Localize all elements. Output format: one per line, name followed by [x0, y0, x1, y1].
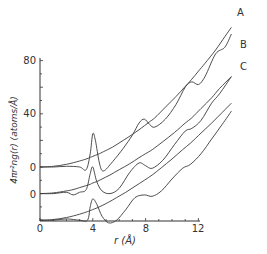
y-tick-label-40: 40 [23, 108, 36, 119]
x-tick-label-12: 12 [192, 223, 205, 234]
x-tick-label-8: 8 [143, 223, 149, 234]
y-tick-label-0-b: 0 [30, 189, 36, 200]
rdf-chart: 80 40 0 0 0 4 8 12 r (Å) 4πr²ng(r) (atom… [0, 0, 267, 254]
curve-a-parabola [40, 27, 231, 167]
curves [40, 27, 231, 223]
curve-b-rdf [40, 77, 231, 195]
y-tick-label-80: 80 [23, 55, 36, 66]
curve-label-c: C [240, 61, 247, 72]
curve-c-parabola [40, 103, 231, 220]
curve-c-rdf [40, 111, 231, 223]
curve-label-a: A [237, 7, 244, 18]
x-axis-title: r (Å) [114, 234, 136, 246]
x-tick-label-4: 4 [90, 223, 96, 234]
y-axis-title: 4πr²ng(r) (atoms/Å) [8, 96, 19, 184]
x-tick-label-0: 0 [37, 223, 43, 234]
y-tick-label-0-a: 0 [30, 162, 36, 173]
curve-b-parabola [40, 77, 231, 194]
curve-a-rdf [40, 34, 231, 171]
curve-label-b: B [240, 39, 247, 50]
